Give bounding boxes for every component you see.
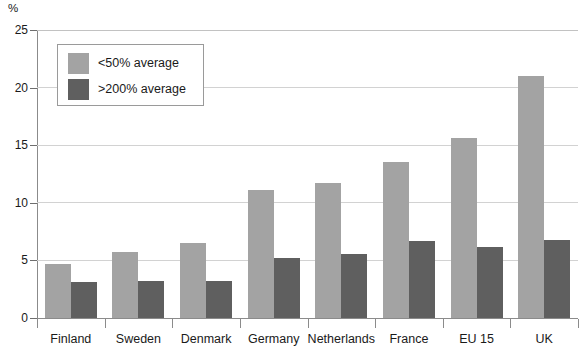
y-axis-tick [30, 145, 37, 146]
legend-label-light: <50% average [98, 56, 179, 71]
legend: <50% average >200% average [57, 44, 204, 106]
x-axis-label-finland: Finland [37, 332, 105, 346]
y-axis-tick-label: 10 [2, 197, 28, 209]
y-axis-tick-label: 25 [2, 24, 28, 36]
bar-uk-high [544, 240, 570, 318]
y-axis-tick [30, 318, 37, 319]
y-axis-tick-label: 20 [2, 82, 28, 94]
bar-sweden-high [138, 281, 164, 318]
x-axis-label-denmark: Denmark [172, 332, 240, 346]
legend-swatch-light-icon [68, 53, 89, 74]
x-axis-separator [443, 319, 444, 328]
bar-finland-high [71, 282, 97, 318]
y-axis-tick [30, 88, 37, 89]
bar-france-high [409, 241, 435, 318]
x-axis-separator [308, 319, 309, 328]
x-axis-separator [578, 319, 579, 328]
bar-germany-low [248, 190, 274, 318]
x-axis-separator [375, 319, 376, 328]
x-axis-separator [172, 319, 173, 328]
y-axis-tick-label-wrap: 15 [0, 139, 28, 151]
bar-eu-15-low [451, 138, 477, 318]
bar-denmark-low [180, 243, 206, 318]
y-axis-tick [30, 30, 37, 31]
y-axis-unit-label: % [8, 2, 18, 15]
y-axis-tick-label: 15 [2, 139, 28, 151]
y-axis-tick-label: 5 [2, 254, 28, 266]
x-axis-label-uk: UK [510, 332, 578, 346]
x-axis-label-netherlands: Netherlands [308, 332, 376, 346]
x-axis-label-sweden: Sweden [105, 332, 173, 346]
y-axis-tick-label: 0 [2, 312, 28, 324]
bar-finland-low [45, 264, 71, 318]
y-axis-tick [30, 203, 37, 204]
bar-denmark-high [206, 281, 232, 318]
y-axis-tick [30, 260, 37, 261]
legend-label-dark: >200% average [98, 82, 186, 97]
legend-swatch-dark-icon [68, 79, 89, 100]
x-axis-separator [240, 319, 241, 328]
y-axis-tick-label-wrap: 0 [0, 312, 28, 324]
x-axis-label-eu-15: EU 15 [443, 332, 511, 346]
x-axis-label-france: France [375, 332, 443, 346]
bar-netherlands-high [341, 254, 367, 319]
x-axis-label-germany: Germany [240, 332, 308, 346]
bar-netherlands-low [315, 183, 341, 318]
bar-chart: % 0510152025 FinlandSwedenDenmarkGermany… [0, 0, 586, 358]
bar-eu-15-high [477, 247, 503, 318]
x-axis-separator [105, 319, 106, 328]
x-axis-separator [510, 319, 511, 328]
x-axis-separator [37, 319, 38, 328]
bar-sweden-low [112, 252, 138, 318]
y-axis-tick-label-wrap: 20 [0, 82, 28, 94]
bar-france-low [383, 162, 409, 318]
y-axis-tick-label-wrap: 5 [0, 254, 28, 266]
bar-germany-high [274, 258, 300, 318]
y-axis-tick-label-wrap: 25 [0, 24, 28, 36]
y-axis-tick-label-wrap: 10 [0, 197, 28, 209]
bar-uk-low [518, 76, 544, 318]
